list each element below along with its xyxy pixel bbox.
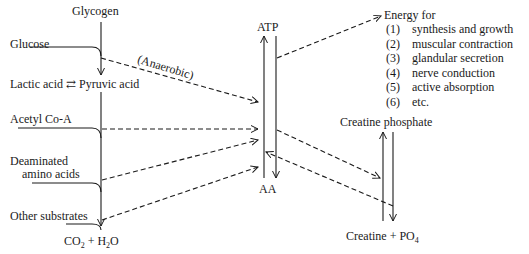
creatine-po4-label: Creatine + PO4	[346, 229, 419, 243]
glucose-label: Glucose	[10, 37, 49, 51]
lactic-acid-text: Lactic acid	[10, 77, 63, 91]
deaminated-branch	[32, 183, 101, 192]
creatine-to-atp-arrow	[266, 152, 393, 206]
co2-text: CO	[64, 234, 81, 248]
energy-item: (1)synthesis and growth	[386, 22, 513, 37]
other-dashed-arrow	[102, 167, 258, 220]
other-substrates-label: Other substrates	[10, 209, 88, 223]
plus-h-text: + H	[85, 234, 106, 248]
acetyl-coa-branch	[18, 128, 101, 138]
o-text: O	[110, 234, 119, 248]
atp-to-energy-arrow	[277, 16, 381, 58]
item-text: nerve conduction	[412, 66, 495, 80]
item-number: (3)	[386, 51, 412, 66]
item-number: (1)	[386, 22, 412, 37]
atp-to-creatine-arrow	[277, 130, 380, 178]
pyruvic-acid-text: Pyruvic acid	[79, 77, 139, 91]
item-number: (6)	[386, 95, 412, 110]
deaminated-label-1: Deaminated	[10, 154, 68, 168]
creatine-text: Creatine + PO	[346, 229, 415, 243]
item-text: muscular contraction	[412, 37, 513, 51]
item-text: etc.	[412, 95, 429, 109]
energy-item: (2)muscular contraction	[386, 37, 513, 52]
deaminated-label-2: amino acids	[22, 167, 80, 181]
energy-uses-list: (1)synthesis and growth (2)muscular cont…	[386, 22, 513, 110]
acetyl-coa-label: Acetyl Co-A	[10, 112, 72, 126]
reversible-arrow-icon: ⇄	[66, 77, 76, 91]
creatine-phosphate-label: Creatine phosphate	[340, 115, 432, 129]
co2-h2o-label: CO2 + H2O	[64, 234, 119, 248]
item-text: active absorption	[412, 80, 494, 94]
item-text: synthesis and growth	[412, 22, 513, 36]
energy-item: (5)active absorption	[386, 80, 513, 95]
energy-item: (4)nerve conduction	[386, 66, 513, 81]
lactic-acid-label: Lactic acid ⇄ Pyruvic acid	[10, 77, 139, 91]
other-substrates-branch	[66, 224, 101, 230]
aa-label: AA	[259, 182, 276, 196]
item-text: glandular secretion	[412, 51, 504, 65]
deaminated-dashed-arrow	[102, 140, 258, 180]
po4-subscript: 4	[415, 236, 419, 245]
energy-item: (3)glandular secretion	[386, 51, 513, 66]
item-number: (2)	[386, 37, 412, 52]
energy-heading: Energy for	[384, 8, 435, 22]
item-number: (5)	[386, 80, 412, 95]
glycogen-label: Glycogen	[72, 4, 119, 18]
atp-label: ATP	[257, 20, 278, 34]
item-number: (4)	[386, 66, 412, 81]
energy-item: (6)etc.	[386, 95, 513, 110]
